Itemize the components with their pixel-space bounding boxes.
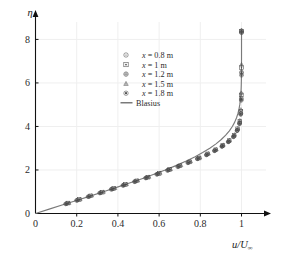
chart-canvas: 00.20.40.60.8102468 x = 0.8 mx = 1 mx = … [0,0,287,259]
legend-marker-circle-dot [124,53,128,57]
legend-label-4: x = 1.8 m [141,89,174,98]
tick-labels: 00.20.40.60.8102468 [25,34,244,229]
x-tick-label: 0.4 [112,218,125,229]
axis-titles: ηu/U∞ [28,7,253,251]
y-tick-label: 4 [25,121,30,132]
y-tick-label: 6 [25,77,30,88]
x-tick-label: 0.6 [153,218,166,229]
y-tick-label: 8 [25,34,30,45]
series-line-blasius [36,31,242,214]
legend-label-3: x = 1.5 m [141,80,174,89]
legend-label-blasius: Blasius [136,99,160,108]
y-axis-title: η [28,7,33,18]
x-tick-label: 0 [33,218,38,229]
data-series [36,28,244,213]
legend-label-1: x = 1 m [141,61,167,70]
legend-label-0: x = 0.8 m [141,51,174,60]
legend-marker-circle-plus [124,72,128,76]
legend-marker-square-dot [124,62,128,66]
legend-marker-circle-filled [124,91,128,95]
y-tick-label: 0 [25,208,30,219]
x-tick-label: 1 [239,218,244,229]
y-axis-arrowhead [33,10,39,17]
legend-label-2: x = 1.2 m [141,70,174,79]
blasius-boundary-layer-figure: 00.20.40.60.8102468 x = 0.8 mx = 1 mx = … [0,0,287,259]
x-tick-label: 0.8 [194,218,207,229]
axes [33,10,271,217]
x-axis-title: u/U∞ [232,239,253,251]
y-tick-label: 2 [25,164,30,175]
legend: x = 0.8 mx = 1 mx = 1.2 mx = 1.5 mx = 1.… [121,51,174,108]
x-axis-arrowhead [264,211,271,217]
x-tick-label: 0.2 [70,218,83,229]
